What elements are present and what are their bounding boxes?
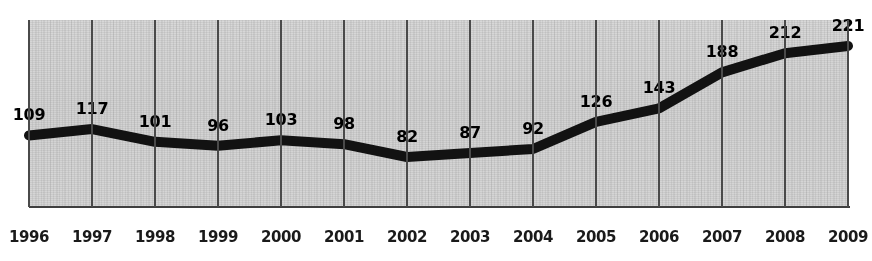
x-tick-label-1998: 1998 <box>135 228 175 246</box>
gridline-2000 <box>280 20 282 207</box>
x-tick-label-2001: 2001 <box>324 228 364 246</box>
gridline-2009 <box>847 20 849 207</box>
line-chart: 1091171019610398828792126143188212221 19… <box>0 0 872 261</box>
gridline-2006 <box>658 20 660 207</box>
x-tick-label-1997: 1997 <box>72 228 112 246</box>
x-tick-label-2004: 2004 <box>513 228 553 246</box>
x-tick-label-2006: 2006 <box>639 228 679 246</box>
gridline-1999 <box>217 20 219 207</box>
x-tick-label-1999: 1999 <box>198 228 238 246</box>
gridline-2005 <box>595 20 597 207</box>
x-axis-line <box>29 206 850 208</box>
x-tick-label-2005: 2005 <box>576 228 616 246</box>
gridline-2004 <box>532 20 534 207</box>
gridline-2008 <box>784 20 786 207</box>
gridline-2001 <box>343 20 345 207</box>
gridline-1997 <box>91 20 93 207</box>
gridline-2002 <box>406 20 408 207</box>
x-tick-label-2002: 2002 <box>387 228 427 246</box>
gridline-1996 <box>28 20 30 207</box>
x-tick-label-2003: 2003 <box>450 228 490 246</box>
x-tick-label-2008: 2008 <box>765 228 805 246</box>
x-tick-label-2009: 2009 <box>828 228 868 246</box>
x-tick-label-2000: 2000 <box>261 228 301 246</box>
gridline-1998 <box>154 20 156 207</box>
x-tick-label-2007: 2007 <box>702 228 742 246</box>
gridline-2007 <box>721 20 723 207</box>
x-tick-label-1996: 1996 <box>9 228 49 246</box>
gridline-2003 <box>469 20 471 207</box>
